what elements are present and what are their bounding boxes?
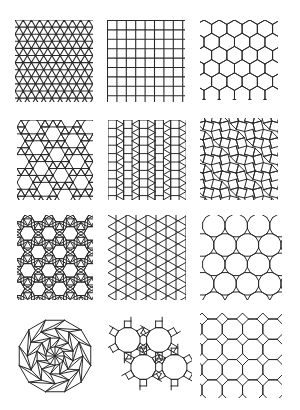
elongated-triangular-tiling (108, 120, 186, 200)
truncated-trihexagonal-tiling-drawing (108, 310, 192, 402)
truncated-hexagonal-tiling (200, 215, 282, 300)
rhombitrihexagonal-tiling (17, 215, 93, 300)
snub-hexagonal-tiling-drawing (17, 120, 93, 200)
snub-hexagonal-tiling (17, 120, 93, 200)
square-tiling (107, 20, 185, 102)
elongated-triangular-tiling-drawing (108, 120, 186, 200)
trihexagonal-tiling (108, 215, 186, 300)
truncated-hexagonal-tiling-drawing (200, 215, 282, 300)
truncated-square-tiling-drawing (200, 313, 282, 398)
hexagonal-tiling (200, 20, 278, 100)
radial-dodecagon-dissection-drawing (17, 318, 93, 394)
hexagonal-tiling-drawing (200, 20, 278, 100)
truncated-trihexagonal-tiling (108, 310, 192, 402)
truncated-square-tiling (200, 313, 282, 398)
rhombitrihexagonal-tiling-drawing (17, 215, 93, 300)
triangular-tiling-drawing (15, 20, 93, 102)
radial-dodecagon-dissection (17, 318, 93, 394)
square-tiling-drawing (107, 20, 185, 102)
snub-square-tiling (200, 118, 278, 200)
snub-square-tiling-drawing (200, 118, 278, 200)
trihexagonal-tiling-drawing (108, 215, 186, 300)
triangular-tiling (15, 20, 93, 102)
